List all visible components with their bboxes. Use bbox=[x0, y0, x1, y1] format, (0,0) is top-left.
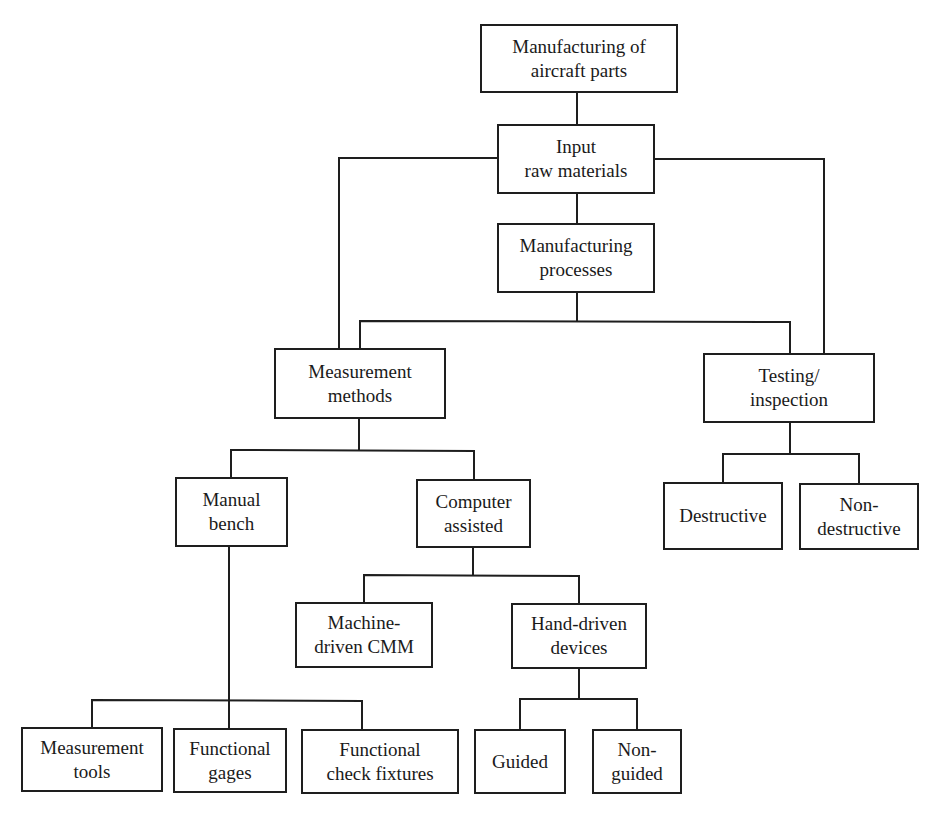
node-manufacturing-processes: Manufacturing processes bbox=[497, 223, 655, 293]
node-measurement-tools: Measurement tools bbox=[21, 727, 163, 792]
node-hand-driven-devices: Hand-driven devices bbox=[511, 603, 647, 669]
node-computer-assisted: Computer assisted bbox=[416, 479, 531, 548]
node-non-guided: Non- guided bbox=[592, 729, 682, 794]
node-input-raw-materials: Input raw materials bbox=[497, 124, 655, 194]
node-destructive: Destructive bbox=[663, 482, 783, 550]
node-measurement-methods: Measurement methods bbox=[274, 348, 446, 419]
node-manual-bench: Manual bench bbox=[175, 477, 288, 547]
manufacturing-hierarchy-diagram: Manufacturing of aircraft parts Input ra… bbox=[0, 0, 944, 822]
node-non-destructive: Non- destructive bbox=[799, 483, 919, 550]
node-manufacturing-of-aircraft-parts: Manufacturing of aircraft parts bbox=[480, 24, 678, 93]
node-guided: Guided bbox=[474, 729, 566, 794]
node-functional-check-fixtures: Functional check fixtures bbox=[301, 729, 459, 794]
node-functional-gages: Functional gages bbox=[173, 728, 287, 793]
node-machine-driven-cmm: Machine- driven CMM bbox=[295, 602, 433, 668]
node-testing-inspection: Testing/ inspection bbox=[703, 353, 875, 423]
